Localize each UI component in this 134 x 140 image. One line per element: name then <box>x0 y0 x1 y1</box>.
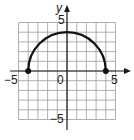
endpoint-dot <box>103 68 108 73</box>
y-min-tick-label: −5 <box>50 113 64 125</box>
origin-label: 0 <box>57 74 64 86</box>
endpoint-dot <box>26 68 31 73</box>
y-max-tick-label: 5 <box>58 14 65 26</box>
coordinate-plane <box>0 0 134 140</box>
x-min-tick-label: −5 <box>4 74 18 86</box>
x-max-tick-label: 5 <box>111 74 118 86</box>
